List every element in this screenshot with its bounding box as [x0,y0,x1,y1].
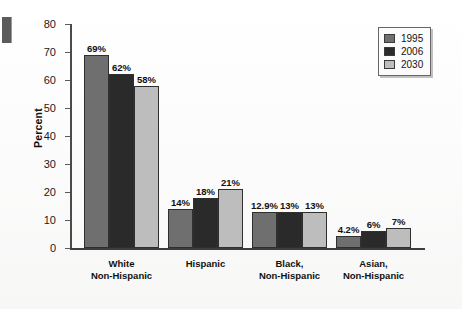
bar-value-label: 62% [112,62,131,73]
bar-value-label: 58% [137,74,156,85]
x-axis-category-line: Non-Hispanic [91,270,152,282]
y-axis-tick-label: 80 [44,18,56,30]
x-axis-category-line: Non-Hispanic [343,270,404,282]
page-edge-artifact [2,17,12,43]
plot-area: 01020304050607080 69%62%58%WhiteNon-Hisp… [70,24,425,250]
bar-group: 14%18%21%Hispanic [168,24,246,248]
y-axis-tick: 80 [65,24,70,25]
legend-item-2006[interactable]: 2006 [384,45,423,58]
bar-value-label: 7% [392,216,406,227]
bar-value-label: 6% [367,219,381,230]
y-axis-tick: 30 [65,164,70,165]
bar-1995-3[interactable]: 12.9% [252,212,277,248]
bar-1995-2[interactable]: 14% [168,209,193,248]
y-axis-tick: 50 [65,108,70,109]
legend-item-1995[interactable]: 1995 [384,32,423,45]
x-axis-category-label: Hispanic [186,258,226,270]
y-axis-tick: 60 [65,80,70,81]
bar-value-label: 4.2% [338,224,360,235]
bar-value-label: 21% [221,177,240,188]
y-axis-title: Percent [32,108,44,148]
y-axis-line [70,24,72,250]
bar-2030-2[interactable]: 21% [218,189,243,248]
bar-value-label: 13% [280,200,299,211]
y-axis-tick-label: 10 [44,214,56,226]
y-axis-tick-label: 50 [44,102,56,114]
y-axis-tick-label: 30 [44,158,56,170]
bar-2006-4[interactable]: 6% [361,231,386,248]
legend-swatch-icon [384,60,395,69]
bar-2006-1[interactable]: 62% [109,74,134,248]
x-axis-category-line: White [91,258,152,270]
x-axis-category-label: Black,Non-Hispanic [259,258,320,282]
x-axis-line [70,248,425,250]
bar-value-label: 18% [196,186,215,197]
y-axis-tick-label: 70 [44,46,56,58]
legend-label: 2006 [401,46,423,57]
y-axis-tick: 20 [65,192,70,193]
bar-value-label: 14% [171,197,190,208]
legend-swatch-icon [384,34,395,43]
bar-2030-3[interactable]: 13% [302,212,327,248]
y-axis-tick-label: 60 [44,74,56,86]
x-axis-category-line: Asian, [343,258,404,270]
x-axis-category-line: Hispanic [186,258,226,270]
legend-item-2030[interactable]: 2030 [384,58,423,71]
x-axis-category-label: WhiteNon-Hispanic [91,258,152,282]
legend-label: 2030 [401,59,423,70]
y-axis-tick: 0 [65,248,70,249]
y-axis-tick-label: 20 [44,186,56,198]
bar-value-label: 69% [87,43,106,54]
bar-2030-1[interactable]: 58% [134,86,159,248]
bar-1995-1[interactable]: 69% [84,55,109,248]
chart-legend: 199520062030 [378,27,431,76]
x-axis-category-label: Asian,Non-Hispanic [343,258,404,282]
bar-group: 69%62%58%WhiteNon-Hispanic [84,24,162,248]
bar-value-label: 13% [305,200,324,211]
bar-value-label: 12.9% [251,200,278,211]
y-axis-tick: 10 [65,220,70,221]
chart-screenshot: Percent 01020304050607080 69%62%58%White… [0,0,462,309]
bar-2006-3[interactable]: 13% [277,212,302,248]
x-axis-category-line: Black, [259,258,320,270]
y-axis-tick-label: 0 [50,242,56,254]
y-axis-tick: 40 [65,136,70,137]
legend-swatch-icon [384,47,395,56]
y-axis-tick: 70 [65,52,70,53]
x-axis-category-line: Non-Hispanic [259,270,320,282]
bar-1995-4[interactable]: 4.2% [336,236,361,248]
bar-2030-4[interactable]: 7% [386,228,411,248]
bar-2006-2[interactable]: 18% [193,198,218,248]
y-axis-tick-label: 40 [44,130,56,142]
legend-label: 1995 [401,33,423,44]
bar-group: 12.9%13%13%Black,Non-Hispanic [252,24,330,248]
